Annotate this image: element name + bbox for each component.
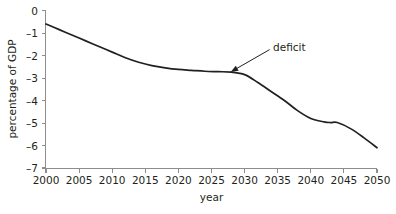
x-tick-label: 2045: [331, 174, 358, 186]
x-tick-label: 2035: [264, 174, 291, 186]
x-axis-tick-labels: 2000 2005 2010 2015 2020 2025 2030 2035 …: [33, 174, 391, 186]
y-tick-label: 0: [31, 5, 38, 17]
chart-figure: 0 –1 –2 –3 –4 –5 –6 –7 percentage of GDP: [0, 0, 396, 214]
y-tick-label: –5: [26, 117, 38, 129]
x-tick-label: 2000: [33, 174, 60, 186]
y-tick-label: –6: [26, 140, 38, 152]
x-tick-label: 2050: [364, 174, 391, 186]
x-axis-title: year: [200, 191, 224, 203]
y-tick-label: –3: [26, 72, 38, 84]
x-tick-label: 2015: [132, 174, 159, 186]
x-tick-label: 2025: [198, 174, 225, 186]
y-tick-label: –4: [26, 95, 38, 107]
y-tick-label: –2: [26, 50, 38, 62]
deficit-line-chart: 0 –1 –2 –3 –4 –5 –6 –7 percentage of GDP: [0, 0, 396, 214]
y-axis-title: percentage of GDP: [6, 39, 18, 138]
annotation-label: deficit: [273, 41, 306, 53]
y-tick-label: –7: [26, 162, 38, 174]
x-tick-label: 2020: [165, 174, 192, 186]
x-tick-label: 2040: [297, 174, 324, 186]
x-tick-label: 2030: [231, 174, 258, 186]
y-tick-label: –1: [26, 27, 38, 39]
x-tick-label: 2005: [66, 174, 93, 186]
x-tick-label: 2010: [99, 174, 126, 186]
